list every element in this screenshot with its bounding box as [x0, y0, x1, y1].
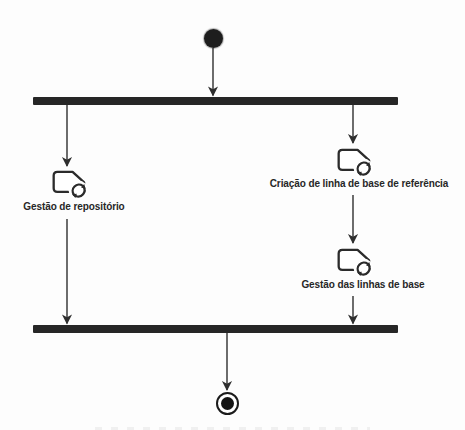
fork-bar	[33, 97, 398, 105]
tag-refresh-icon	[50, 167, 92, 201]
activity-label-gestao-das-linhas-de-base: Gestão das linhas de base	[301, 279, 424, 290]
tag-refresh-icon	[335, 145, 377, 179]
activity-final-inner-dot	[221, 397, 234, 410]
diagram-edges	[0, 0, 465, 430]
join-bar	[33, 325, 398, 333]
activity-diagram: Gestão de repositório Criação de linha d…	[0, 0, 465, 430]
activity-label-criacao-de-linha-de-base: Criação de linha de base de referência	[270, 178, 449, 189]
initial-node	[204, 29, 223, 48]
tag-refresh-icon	[335, 245, 377, 279]
activity-label-gestao-de-repositorio: Gestão de repositório	[23, 201, 124, 212]
activity-final-node	[216, 392, 239, 415]
